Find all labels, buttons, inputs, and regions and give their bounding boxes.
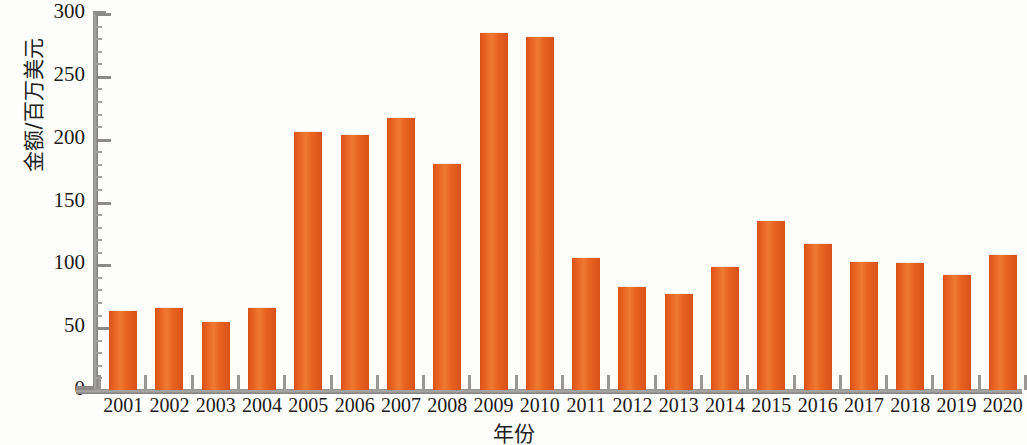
bar [665, 293, 693, 390]
bar [480, 32, 508, 390]
bar [248, 307, 276, 390]
bar [618, 286, 646, 390]
bar-chart: 金额/百万美元 050100150200250300 2001200220032… [0, 0, 1027, 445]
bar [202, 321, 230, 390]
bar [757, 220, 785, 390]
bar [572, 257, 600, 390]
bar [155, 307, 183, 390]
bar [711, 266, 739, 390]
bar [850, 261, 878, 390]
bar [433, 163, 461, 390]
bar [526, 36, 554, 390]
bar [943, 274, 971, 390]
bar-series [0, 0, 1027, 391]
x-axis-title: 年份 [0, 417, 1027, 445]
bar [341, 134, 369, 390]
bar [109, 310, 137, 390]
bar [804, 243, 832, 390]
bar [896, 262, 924, 390]
bar [387, 117, 415, 390]
bar [989, 254, 1017, 390]
bar [294, 131, 322, 390]
x-tick-label: 2020 [975, 394, 1027, 417]
